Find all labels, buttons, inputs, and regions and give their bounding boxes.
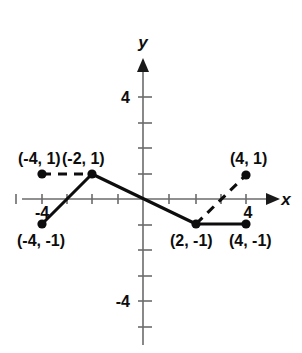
x-axis-arrow-icon [266, 193, 280, 205]
point-neg2-1 [87, 169, 96, 178]
point-4-1 [241, 170, 250, 179]
point-2-neg1 [191, 219, 200, 228]
coordinate-plane-figure: y x 4 -4 -4 4 (-4, 1) (-2, 1) (4, 1) (-4… [0, 0, 302, 353]
y-axis-ticks [138, 97, 152, 327]
x-tick-label-neg4: -4 [35, 204, 49, 221]
point-label-4-1: (4, 1) [230, 150, 267, 167]
y-axis-arrow-icon [137, 58, 149, 72]
y-axis-label: y [137, 33, 149, 52]
x-tick-label-4: 4 [244, 204, 253, 221]
point-label-neg4-1: (-4, 1) [18, 150, 61, 167]
point-label-4-neg1: (4, -1) [229, 232, 272, 249]
x-axis-label: x [280, 190, 292, 209]
y-tick-label-4: 4 [121, 89, 130, 106]
point-label-neg2-1: (-2, 1) [62, 150, 105, 167]
point-neg4-1 [37, 169, 46, 178]
graph-screenshot: y x 4 -4 -4 4 (-4, 1) (-2, 1) (4, 1) (-4… [0, 0, 302, 353]
point-label-neg4-neg1: (-4, -1) [17, 232, 65, 249]
point-label-2-neg1: (2, -1) [170, 232, 213, 249]
y-tick-label-neg4: -4 [116, 293, 130, 310]
